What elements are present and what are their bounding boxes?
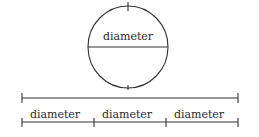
ruler-segment-label-1: diameter (23, 109, 87, 121)
circumference-diameter-figure: diameter diameter diameter diameter (0, 0, 259, 137)
circle-group (88, 2, 168, 90)
circle-diameter-label: diameter (88, 31, 168, 43)
ruler-segment-label-3: diameter (167, 109, 231, 121)
ruler-segment-label-2: diameter (95, 109, 159, 121)
